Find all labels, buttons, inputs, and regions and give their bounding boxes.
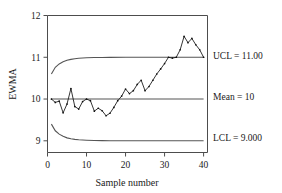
y-axis-ticks	[44, 16, 48, 141]
data-point	[136, 84, 138, 86]
data-point	[125, 88, 127, 90]
y-axis-label: EWMA	[7, 67, 18, 99]
data-point	[109, 112, 111, 114]
ewma-series-line	[51, 36, 203, 115]
data-point	[183, 36, 185, 38]
data-point	[199, 49, 201, 51]
data-point	[113, 107, 115, 109]
data-point	[168, 56, 170, 58]
x-axis-label: Sample number	[95, 177, 159, 188]
data-point	[51, 98, 53, 100]
data-point	[62, 112, 64, 114]
data-point	[105, 115, 107, 117]
data-point	[97, 107, 99, 109]
data-point	[164, 63, 166, 65]
data-point	[129, 93, 131, 95]
data-point	[148, 86, 150, 88]
data-point	[133, 90, 135, 92]
x-tick-label: 40	[199, 160, 209, 170]
y-tick-label: 12	[31, 11, 41, 21]
ewma-series-markers	[51, 36, 205, 117]
data-point	[58, 100, 60, 102]
y-tick-label: 10	[31, 94, 41, 104]
x-axis-ticks	[48, 153, 204, 157]
x-tick-label: 0	[45, 160, 50, 170]
ewma-control-chart: 9101112 010203040 Sample number EWMA UCL…	[0, 0, 282, 193]
x-tick-label: 10	[82, 160, 92, 170]
lcl-annotation: LCL = 9.000	[213, 133, 262, 143]
data-point	[152, 79, 154, 81]
data-point	[195, 44, 197, 46]
data-point	[140, 79, 142, 81]
ucl-curve	[51, 57, 203, 74]
data-point	[82, 101, 84, 103]
chart-canvas: 9101112 010203040 Sample number EWMA UCL…	[0, 0, 282, 193]
data-point	[121, 95, 123, 97]
x-axis-tick-labels: 010203040	[45, 160, 208, 170]
x-tick-label: 30	[160, 160, 170, 170]
lcl-curve	[51, 124, 203, 141]
y-tick-label: 11	[31, 53, 40, 63]
data-point	[74, 106, 76, 108]
data-point	[144, 90, 146, 92]
data-point	[101, 110, 103, 112]
y-tick-label: 9	[36, 136, 41, 146]
data-point	[187, 42, 189, 44]
data-point	[90, 100, 92, 102]
ucl-annotation: UCL = 11.00	[213, 51, 263, 61]
data-point	[78, 108, 80, 110]
data-point	[156, 73, 158, 75]
data-point	[175, 56, 177, 58]
data-point	[117, 100, 119, 102]
data-point	[54, 102, 56, 104]
data-point	[66, 103, 68, 105]
data-point	[93, 110, 95, 112]
data-point	[203, 56, 205, 58]
data-point	[191, 38, 193, 40]
data-point	[160, 68, 162, 70]
y-axis-tick-labels: 9101112	[31, 11, 41, 146]
data-point	[179, 49, 181, 51]
x-tick-label: 20	[121, 160, 131, 170]
mean-annotation: Mean = 10	[213, 92, 254, 102]
data-point	[172, 57, 174, 59]
data-point	[70, 88, 72, 90]
data-point	[86, 98, 88, 100]
